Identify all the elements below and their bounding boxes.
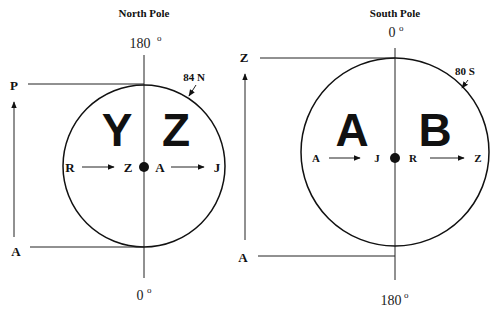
south-title: South Pole <box>370 7 421 19</box>
south-flow-right-start: R <box>409 152 418 164</box>
north-flow-left-end: Z <box>124 160 133 175</box>
south-axis-bottom-label: A <box>238 250 248 265</box>
north-quadrant-left: Y <box>102 104 133 156</box>
south-flow-left-start: A <box>312 152 320 164</box>
north-pole-dot <box>139 162 149 172</box>
south-flow-left-end: J <box>374 152 380 164</box>
north-axis-top-label: P <box>10 78 18 93</box>
north-flow-right-end: J <box>214 160 221 175</box>
south-flow-right-end: Z <box>474 152 481 164</box>
north-top-degree-symbol: o <box>157 33 162 43</box>
south-quadrant-right: B <box>418 104 451 156</box>
south-top-degree: 0 <box>389 25 396 40</box>
north-bottom-degree-symbol: o <box>147 285 152 295</box>
south-latitude-pointer <box>462 80 468 88</box>
north-axis-bottom-label: A <box>11 244 21 259</box>
north-latitude-label: 84 N <box>183 71 205 83</box>
south-pole-dot <box>390 153 400 163</box>
north-title: North Pole <box>118 7 169 19</box>
north-quadrant-right: Z <box>162 104 190 156</box>
south-latitude-label: 80 S <box>455 65 475 77</box>
south-axis-top-label: Z <box>240 50 249 65</box>
north-flow-left-start: R <box>65 160 75 175</box>
polar-diagram: North Pole 180 o P A 84 N Y Z R Z A J 0 … <box>0 0 497 316</box>
south-pole-panel: South Pole 0 o Z A 80 S A B A J R Z 180 … <box>238 7 489 308</box>
north-pole-panel: North Pole 180 o P A 84 N Y Z R Z A J 0 … <box>10 7 225 303</box>
north-flow-right-start: A <box>155 160 165 175</box>
north-bottom-degree: 0 <box>137 288 144 303</box>
south-top-degree-symbol: o <box>399 23 404 33</box>
north-latitude-pointer <box>189 85 196 96</box>
south-quadrant-left: A <box>335 104 368 156</box>
north-top-degree: 180 <box>130 36 151 51</box>
south-bottom-degree: 180 <box>381 293 402 308</box>
south-bottom-degree-symbol: o <box>404 290 409 300</box>
